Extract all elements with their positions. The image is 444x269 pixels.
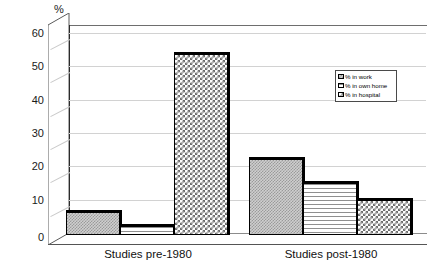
legend-swatch-in-hospital: [338, 92, 344, 97]
legend-item-in-own-home: % in own home: [338, 81, 394, 90]
y-tick-label-40: 40: [14, 95, 44, 106]
floor-front-edge: [48, 244, 427, 245]
gridline-60: [69, 33, 426, 34]
legend-swatch-in-own-home: [338, 83, 344, 88]
legend-item-in-hospital: % in hospital: [338, 90, 394, 99]
chart-legend: % in work % in own home % in hospital: [335, 70, 397, 102]
bar-chart: % 60 50 40 30 20 10 0 Studies pre-1980: [0, 0, 444, 269]
gridline-30: [69, 133, 426, 134]
y-tick-label-30: 30: [14, 128, 44, 139]
bar-pre1980-in-hospital: [174, 52, 230, 235]
legend-label-in-own-home: % in own home: [345, 82, 387, 90]
bar-post1980-in-own-home: [303, 181, 359, 235]
y-tick-label-10: 10: [14, 195, 44, 206]
gridline-20: [69, 166, 426, 167]
bar-pre1980-in-work: [66, 210, 122, 235]
legend-swatch-in-work: [338, 74, 344, 79]
bar-post1980-in-work: [249, 157, 305, 235]
gridline-50: [69, 66, 426, 67]
bar-pre1980-in-own-home: [120, 224, 176, 235]
y-tick-label-60: 60: [14, 28, 44, 39]
legend-label-in-work: % in work: [345, 73, 372, 81]
x-axis-label-pre1980: Studies pre-1980: [63, 248, 233, 261]
y-tick-label-50: 50: [14, 61, 44, 72]
x-axis-label-post1980: Studies post-1980: [246, 248, 416, 261]
bar-post1980-in-hospital: [357, 198, 413, 235]
legend-item-in-work: % in work: [338, 72, 394, 81]
y-tick-label-0: 0: [14, 232, 44, 243]
y-tick-label-20: 20: [14, 161, 44, 172]
legend-label-in-hospital: % in hospital: [345, 91, 380, 99]
